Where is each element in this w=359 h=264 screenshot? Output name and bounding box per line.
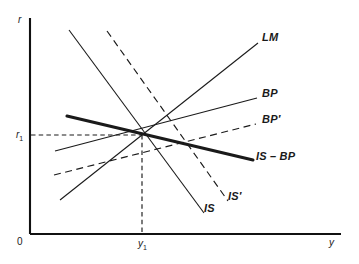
guide-lines-group	[31, 135, 142, 234]
curves-group	[54, 30, 258, 213]
bp-curve-label: BP	[262, 87, 278, 99]
y1-tick-label: y1	[138, 238, 147, 251]
lm-curve-label: LM	[262, 31, 278, 43]
is-prime-curve	[107, 31, 228, 201]
is-bp-curve-label: IS – BP	[256, 150, 295, 162]
axes-group	[30, 18, 341, 234]
y-axis-label: r	[18, 14, 21, 25]
plot-canvas	[0, 0, 359, 264]
bp-prime-curve-label: BP′	[262, 113, 281, 125]
bp-curve	[55, 98, 257, 151]
r1-tick-label: r1	[16, 129, 23, 142]
x-axis-label: y	[329, 237, 334, 248]
is-curve-label: IS	[204, 202, 215, 214]
y1-tick-subscript: 1	[143, 244, 147, 251]
bp-prime-curve	[54, 124, 256, 175]
r1-tick-subscript: 1	[19, 135, 23, 142]
is-lm-bp-diagram: LM BP BP′ IS IS′ IS – BP r y 0 r1 y1	[0, 0, 359, 264]
origin-label: 0	[17, 236, 23, 247]
is-prime-curve-label: IS′	[228, 190, 242, 202]
